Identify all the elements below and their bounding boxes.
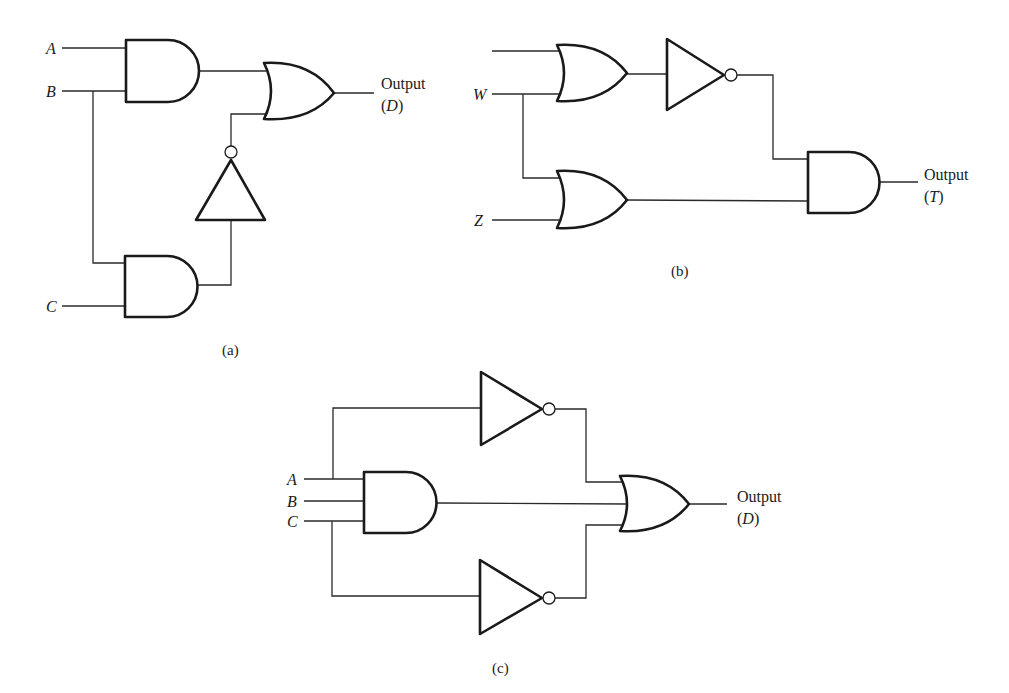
output-label-b: Output — [924, 166, 969, 184]
input-label-c-b: B — [287, 493, 297, 510]
not-bubble-b — [725, 69, 737, 81]
not-gate-c-top — [481, 372, 542, 445]
not-gate-a — [196, 160, 265, 220]
wire-a-not-to-or — [231, 114, 268, 146]
not-bubble-c-top — [543, 403, 555, 415]
not-bubble-a — [225, 146, 237, 158]
circuit-panel-c: A B C Output (D) (c) — [286, 372, 782, 677]
input-label-a-c: C — [46, 298, 57, 315]
and-gate-a-bottom — [125, 256, 197, 317]
wire-c-not-bottom-to-or — [555, 525, 623, 598]
output-label-c: Output — [737, 488, 782, 506]
wire-a-b-branch — [93, 91, 125, 263]
and-gate-a-top — [126, 40, 199, 102]
or-gate-b-top — [557, 45, 627, 102]
and-gate-b — [808, 152, 879, 213]
or-gate-c — [620, 476, 689, 532]
and-gate-c — [364, 472, 436, 533]
wire-b-not-to-and — [737, 75, 808, 159]
wire-c-and-to-or — [437, 503, 628, 504]
or-gate-a — [264, 63, 334, 120]
input-label-a-b: B — [46, 83, 56, 100]
input-label-b-z: Z — [474, 212, 484, 229]
output-symbol-a: (D) — [381, 97, 403, 115]
circuit-panel-a: A B C Output (D) (a) — [45, 40, 426, 359]
not-gate-c-bottom — [480, 560, 542, 634]
or-gate-b-bottom — [557, 171, 627, 229]
wire-c-a-to-not-top — [333, 408, 481, 479]
not-bubble-c-bottom — [543, 592, 555, 604]
input-label-c-c: C — [287, 513, 298, 530]
output-symbol-b: (T) — [924, 188, 944, 206]
wire-c-not-top-to-or — [555, 409, 623, 482]
output-label-a: Output — [381, 75, 426, 93]
wire-a-and2-to-not — [198, 220, 231, 285]
output-symbol-c: (D) — [737, 510, 759, 528]
caption-b: (b) — [671, 263, 689, 280]
caption-a: (a) — [222, 342, 239, 359]
caption-c: (c) — [492, 660, 509, 677]
input-label-a-a: A — [45, 40, 56, 57]
wire-b-w-branch — [523, 94, 559, 178]
input-label-b-w: W — [473, 86, 488, 103]
not-gate-b — [667, 39, 724, 110]
wire-b-or2-to-and — [627, 200, 808, 201]
circuit-panel-b: W Z Output (T) (b) — [473, 39, 969, 280]
input-label-c-a: A — [286, 471, 297, 488]
logic-circuit-figure: A B C Output (D) (a) W Z Output (T) — [0, 0, 1009, 693]
